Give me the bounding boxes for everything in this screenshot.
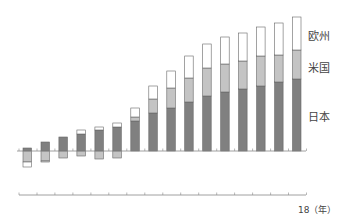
bar-segment <box>113 151 122 158</box>
bar-segment <box>23 162 32 167</box>
bar-segment <box>131 121 140 151</box>
stacked-bar-chart <box>0 0 346 221</box>
bar-segment <box>149 99 158 113</box>
bar-segment <box>95 130 104 151</box>
bar-segment <box>221 64 230 92</box>
legend-label-europe: 欧州 <box>308 27 330 43</box>
bar-segment <box>239 33 248 61</box>
bar-segment <box>293 17 302 50</box>
legend-label-us: 米国 <box>308 59 330 75</box>
bar-segment <box>221 37 230 64</box>
bar-segment <box>149 113 158 151</box>
bar-segment <box>167 71 176 88</box>
bar-segment <box>257 56 266 86</box>
bar-segment <box>59 151 68 158</box>
bar-segment <box>293 79 302 151</box>
bar-segment <box>185 78 194 102</box>
bar-segment <box>167 88 176 108</box>
x-axis-end-label: 18（年） <box>298 203 336 216</box>
bar-segment <box>185 56 194 78</box>
bar-segment <box>221 92 230 151</box>
bar-segment <box>149 86 158 99</box>
bar-segment <box>257 86 266 151</box>
bar-segment <box>185 102 194 151</box>
bar-segment <box>95 151 104 159</box>
bar-segment <box>23 151 32 162</box>
bar-segment <box>41 161 50 162</box>
bars-group <box>23 17 301 167</box>
legend-label-japan: 日本 <box>308 108 330 124</box>
bar-segment <box>239 61 248 89</box>
bar-segment <box>257 27 266 56</box>
bar-segment <box>77 134 86 151</box>
bar-segment <box>203 96 212 151</box>
bar-segment <box>131 117 140 121</box>
bar-segment <box>275 55 284 82</box>
bar-segment <box>203 68 212 96</box>
bar-segment <box>239 89 248 151</box>
bar-segment <box>203 44 212 68</box>
bar-segment <box>167 108 176 151</box>
bar-segment <box>275 23 284 55</box>
bar-segment <box>113 123 122 127</box>
bar-segment <box>59 137 68 151</box>
bar-segment <box>77 151 86 156</box>
bar-segment <box>77 130 86 134</box>
bar-segment <box>41 142 50 151</box>
bar-segment <box>41 151 50 161</box>
bar-segment <box>293 50 302 79</box>
bar-segment <box>131 108 140 117</box>
bar-segment <box>113 127 122 151</box>
bar-segment <box>23 148 32 151</box>
bar-segment <box>95 127 104 130</box>
bar-segment <box>275 82 284 151</box>
